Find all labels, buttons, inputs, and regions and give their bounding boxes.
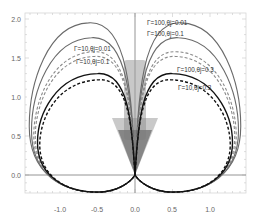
- y-tick-label: 0.0: [11, 172, 21, 179]
- curve-label: Γ=100,θj=0.01: [147, 19, 188, 27]
- curve-label: Γ=100,θj=0.3: [177, 66, 214, 74]
- y-tick-label: 0.5: [11, 133, 21, 140]
- y-tick-label: 2.0: [11, 16, 21, 23]
- x-tick-label: 1.0: [205, 206, 215, 213]
- curve-label: Γ=10,θj=0.1: [76, 58, 110, 66]
- x-tick-label: -1.0: [54, 206, 66, 213]
- curve-label: Γ=10,θj=0.01: [74, 45, 111, 53]
- y-tick-label: 1.0: [11, 94, 21, 101]
- y-tick-label: 1.5: [11, 55, 21, 62]
- polar-lobe-chart: -1.0 -0.5 0.0 0.5 1.0 0.0 0.5 1.0 1.5 2.…: [0, 0, 260, 223]
- curve-label: Γ=100,θj=0.1: [147, 30, 184, 38]
- curve-label: Γ=10,θj=0.3: [178, 84, 212, 92]
- x-tick-label: -0.5: [91, 206, 103, 213]
- jet-cone-shading: [112, 60, 158, 175]
- x-tick-label: 0.5: [167, 206, 177, 213]
- x-tick-label: 0.0: [130, 206, 140, 213]
